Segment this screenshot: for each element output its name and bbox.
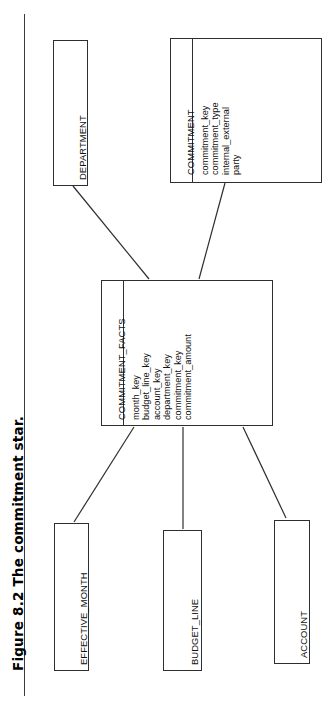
attribute: commitment_key	[200, 102, 210, 175]
entity-facts-attributes: month_key budget_line_key account_key de…	[131, 334, 193, 420]
entity-account-title: ACCOUNT	[299, 611, 308, 658]
attribute: department_key	[162, 334, 172, 420]
entity-account[interactable]: ACCOUNT	[274, 520, 310, 664]
entity-effective-month[interactable]: EFFECTIVE_MONTH	[54, 523, 89, 671]
connector-facts-effective-month	[74, 427, 134, 522]
attribute: party	[231, 102, 241, 175]
attribute: budget_line_key	[141, 334, 151, 420]
entity-effective-month-title: EFFECTIVE_MONTH	[79, 572, 88, 665]
star-schema-diagram: DEPARTMENT COMMITMENT commitment_key com…	[0, 0, 330, 709]
figure-page: Figure 8.2 The commitment star. DEPARTME…	[0, 0, 330, 709]
entity-commitment-title: COMMITMENT	[186, 109, 195, 175]
entity-department-title: DEPARTMENT	[78, 115, 87, 180]
entity-facts-title: COMMITMENT_FACTS	[117, 318, 126, 420]
attribute: commitment_key	[173, 334, 183, 420]
attribute: account_key	[152, 334, 162, 420]
connector-department-facts	[73, 186, 149, 279]
entity-budget-line[interactable]: BUDGET_LINE	[163, 530, 202, 671]
entity-commitment-facts[interactable]: COMMITMENT_FACTS month_key budget_line_k…	[101, 280, 273, 426]
attribute: commitment_amount	[183, 334, 193, 420]
attribute: internal_external	[221, 102, 231, 175]
attribute: commitment_type	[210, 102, 220, 175]
attribute: month_key	[131, 334, 141, 420]
entity-department[interactable]: DEPARTMENT	[53, 40, 88, 186]
entity-budget-line-title: BUDGET_LINE	[190, 599, 199, 665]
connector-commitment-facts	[199, 183, 225, 279]
connector-facts-account	[243, 427, 286, 518]
entity-commitment-attributes: commitment_key commitment_type internal_…	[200, 102, 242, 175]
entity-commitment[interactable]: COMMITMENT commitment_key commitment_typ…	[170, 38, 322, 183]
